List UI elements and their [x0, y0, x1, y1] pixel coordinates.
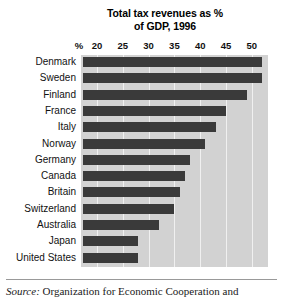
bar-sweden — [83, 73, 262, 83]
bar-australia — [83, 220, 159, 230]
category-label-finland: Finland — [0, 88, 76, 101]
chart-figure: Total tax revenues as % of GDP, 1996 %20… — [0, 0, 283, 301]
bar-row: Norway — [0, 137, 283, 153]
footer-divider — [6, 279, 277, 280]
bar-japan — [83, 236, 138, 246]
category-label-germany: Germany — [0, 153, 76, 166]
bar-norway — [83, 139, 205, 149]
bar-united-states — [83, 253, 138, 263]
x-axis-tick-45: 45 — [221, 40, 232, 51]
bar-germany — [83, 155, 190, 165]
x-axis-tick-50: 50 — [247, 40, 258, 51]
bar-switzerland — [83, 204, 174, 214]
bar-row: France — [0, 104, 283, 120]
bar-row: Sweden — [0, 71, 283, 87]
x-axis-tick-40: 40 — [195, 40, 206, 51]
bar-finland — [83, 90, 247, 100]
bar-denmark — [83, 57, 262, 67]
category-label-switzerland: Switzerland — [0, 202, 76, 215]
category-label-sweden: Sweden — [0, 71, 76, 84]
bar-row: Italy — [0, 120, 283, 136]
bar-row: Australia — [0, 218, 283, 234]
source-text: Organization for Economic Cooperation an… — [43, 285, 239, 297]
x-axis-tick-20: 20 — [92, 40, 103, 51]
x-axis-tick-35: 35 — [169, 40, 180, 51]
category-label-france: France — [0, 104, 76, 117]
bar-row: United States — [0, 251, 283, 267]
bar-row: Canada — [0, 169, 283, 185]
chart-title-line-2: of GDP, 1996 — [60, 20, 270, 33]
bar-britain — [83, 187, 180, 197]
category-label-britain: Britain — [0, 185, 76, 198]
category-label-australia: Australia — [0, 218, 76, 231]
bar-row: Germany — [0, 153, 283, 169]
bar-row: Japan — [0, 234, 283, 250]
x-axis-unit-label: % — [75, 40, 83, 51]
bar-row: Denmark — [0, 55, 283, 71]
x-axis-tick-30: 30 — [143, 40, 154, 51]
category-label-canada: Canada — [0, 169, 76, 182]
bar-row: Switzerland — [0, 202, 283, 218]
source-note: Source: Organization for Economic Cooper… — [6, 284, 277, 298]
source-label: Source: — [6, 285, 40, 297]
category-label-japan: Japan — [0, 234, 76, 247]
x-axis-tick-25: 25 — [118, 40, 129, 51]
x-axis-tick-labels: %20253035404550 — [0, 40, 283, 53]
bar-row: Finland — [0, 88, 283, 104]
bar-italy — [83, 122, 216, 132]
chart-title-line-1: Total tax revenues as % — [60, 7, 270, 20]
category-label-norway: Norway — [0, 137, 76, 150]
chart-title: Total tax revenues as % of GDP, 1996 — [60, 7, 270, 33]
bar-france — [83, 106, 226, 116]
category-label-united-states: United States — [0, 251, 76, 264]
bar-canada — [83, 171, 185, 181]
category-label-denmark: Denmark — [0, 55, 76, 68]
bar-rows: DenmarkSwedenFinlandFranceItalyNorwayGer… — [0, 55, 283, 267]
bar-row: Britain — [0, 185, 283, 201]
category-label-italy: Italy — [0, 120, 76, 133]
